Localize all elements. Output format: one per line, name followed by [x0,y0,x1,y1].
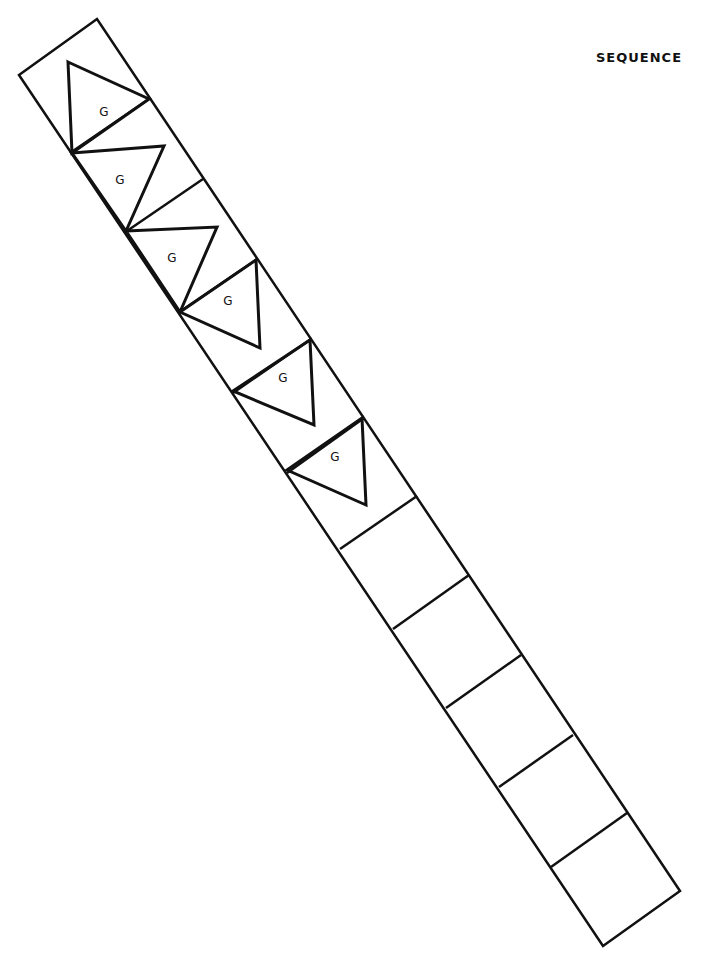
triangle-cell: G [126,227,217,312]
triangle-label: G [223,294,232,308]
triangle-shapes: GGGGGG [68,62,366,505]
cell-divider [393,575,469,629]
sequence-strip [19,19,680,946]
cell-divider [340,496,417,549]
sequence-strip-diagram: GGGGGG [0,0,708,965]
strip-outline [19,19,680,946]
cell-divider [551,813,627,867]
triangle-cell: G [72,146,164,231]
triangle-cell: G [68,62,149,153]
sequence-title: SEQUENCE [596,50,682,65]
triangle-label: G [115,173,124,187]
triangle-label: G [167,251,176,265]
triangle-label: G [99,105,108,119]
cell-dividers [70,99,627,867]
cell-divider [499,735,573,787]
triangle-icon [72,146,164,231]
cell-divider [446,655,521,708]
triangle-label: G [278,371,287,385]
triangle-label: G [330,450,339,464]
sequence-diagram: SEQUENCE GGGGGG [0,0,708,965]
triangle-icon [126,227,217,312]
